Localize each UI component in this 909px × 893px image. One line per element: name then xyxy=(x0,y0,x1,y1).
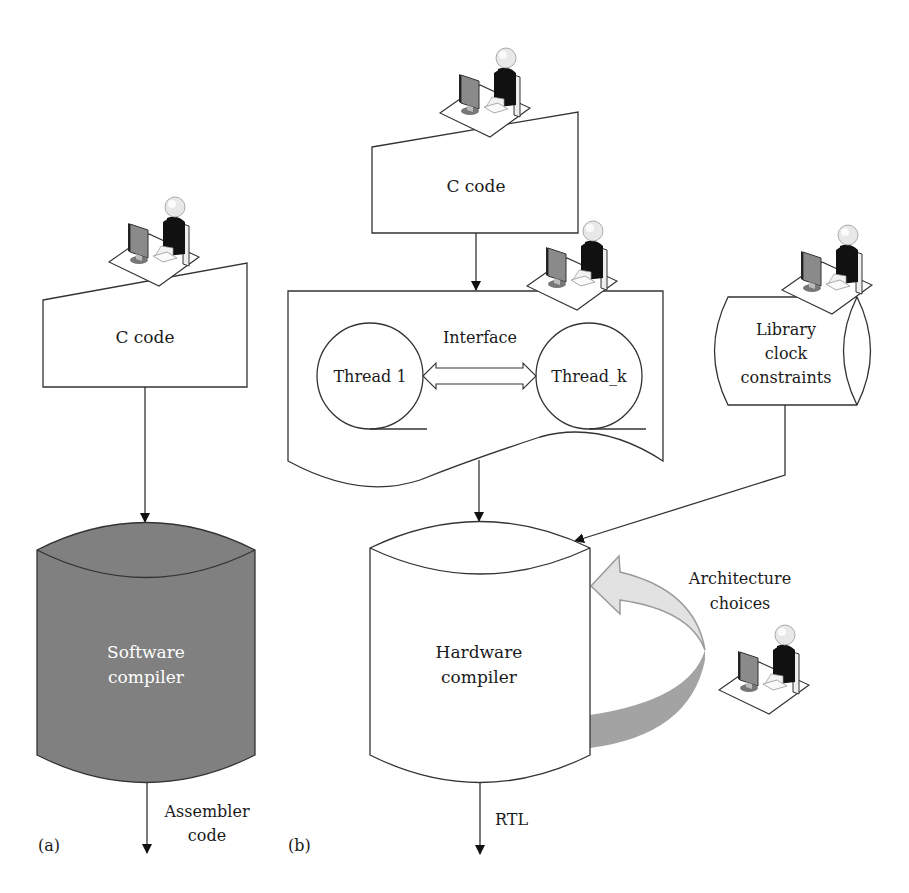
architecture-arrow-band-lower xyxy=(590,650,705,748)
panel-a-label: (a) xyxy=(38,836,60,855)
assembler-code-label-line1: Assembler xyxy=(163,802,249,821)
panel-b-label: (b) xyxy=(288,836,311,855)
architecture-label-line1: Architecture xyxy=(688,569,791,588)
library-label-line3: constraints xyxy=(741,368,832,387)
hardware-compiler-label-line2: compiler xyxy=(441,667,518,687)
c-code-input-box-a xyxy=(43,263,247,387)
c-code-label-b: C code xyxy=(446,176,505,196)
library-label-line1: Library xyxy=(756,320,816,339)
rtl-label: RTL xyxy=(495,810,528,829)
panel-a: C code Software compiler Assembler code … xyxy=(37,197,255,855)
operator-at-workstation-icon xyxy=(719,625,809,714)
operator-at-workstation-icon xyxy=(109,197,199,286)
software-compiler-label-line2: compiler xyxy=(108,667,185,687)
thread-k-label: Thread_k xyxy=(551,367,627,386)
thread-1-label: Thread 1 xyxy=(333,367,406,386)
hardware-compiler-label-line1: Hardware xyxy=(436,642,523,662)
software-compiler-label-line1: Software xyxy=(107,642,185,662)
interface-label: Interface xyxy=(443,328,517,347)
diagram-canvas: C code Software compiler Assembler code … xyxy=(0,0,909,893)
panel-b: C code Thread 1 Thread_k Interface Libra… xyxy=(288,48,872,855)
library-label-line2: clock xyxy=(765,344,808,363)
c-code-label-a: C code xyxy=(115,327,174,347)
assembler-code-label-line2: code xyxy=(188,826,226,845)
architecture-label-line2: choices xyxy=(710,594,771,613)
